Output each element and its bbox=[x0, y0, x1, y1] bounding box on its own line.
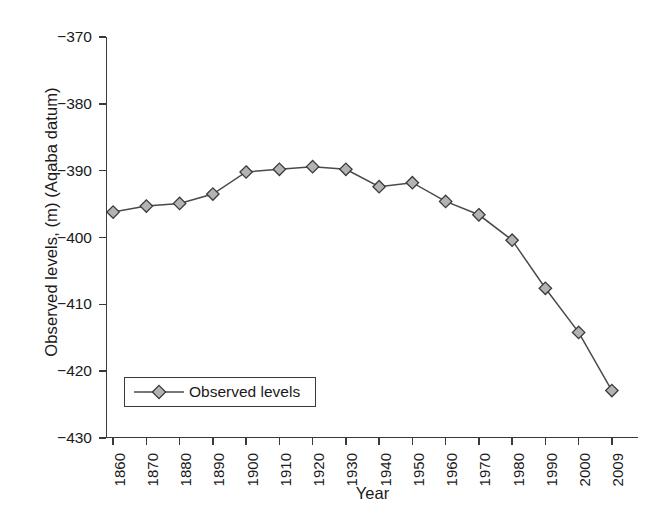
x-tick-label: 1930 bbox=[343, 453, 360, 486]
legend-marker-icon bbox=[131, 381, 187, 403]
data-point bbox=[606, 384, 618, 396]
data-point bbox=[373, 181, 385, 193]
y-tick bbox=[99, 237, 106, 238]
data-point bbox=[406, 176, 418, 188]
x-tick bbox=[511, 438, 512, 445]
x-tick-label: 2009 bbox=[609, 453, 626, 486]
y-tick-label: −380 bbox=[57, 95, 92, 113]
chart-figure: Observed levels, (m) (Aqaba datum) −370−… bbox=[0, 0, 668, 522]
x-tick bbox=[245, 438, 246, 445]
data-point bbox=[173, 197, 185, 209]
legend: Observed levels bbox=[124, 377, 316, 407]
x-tick bbox=[578, 438, 579, 445]
data-point bbox=[107, 206, 119, 218]
x-tick-label: 2000 bbox=[576, 453, 593, 486]
series-markers bbox=[107, 160, 618, 396]
x-tick bbox=[212, 438, 213, 445]
y-tick-label: −390 bbox=[57, 162, 92, 180]
plot-area: −370−380−390−400−410−420−430 18601870188… bbox=[106, 37, 638, 438]
y-tick-label: −370 bbox=[57, 28, 92, 46]
x-tick bbox=[345, 438, 346, 445]
x-tick bbox=[179, 438, 180, 445]
y-tick-label: −430 bbox=[57, 429, 92, 447]
data-point bbox=[473, 209, 485, 221]
y-tick bbox=[99, 437, 106, 438]
x-tick-label: 1940 bbox=[376, 453, 393, 486]
data-point bbox=[140, 200, 152, 212]
y-tick bbox=[99, 304, 106, 305]
x-tick-label: 1980 bbox=[509, 453, 526, 486]
data-point bbox=[273, 163, 285, 175]
x-tick-label: 1990 bbox=[542, 453, 559, 486]
data-point bbox=[340, 163, 352, 175]
x-tick bbox=[112, 438, 113, 445]
series-line bbox=[113, 167, 612, 391]
x-tick-label: 1950 bbox=[409, 453, 426, 486]
x-tick bbox=[279, 438, 280, 445]
x-tick bbox=[545, 438, 546, 445]
data-point bbox=[539, 282, 551, 294]
data-point bbox=[306, 160, 318, 172]
data-point bbox=[572, 326, 584, 338]
x-tick bbox=[378, 438, 379, 445]
x-tick bbox=[412, 438, 413, 445]
y-tick bbox=[99, 36, 106, 37]
x-tick-label: 1860 bbox=[110, 453, 127, 486]
x-tick-label: 1910 bbox=[276, 453, 293, 486]
data-point bbox=[207, 188, 219, 200]
x-tick-label: 1960 bbox=[443, 453, 460, 486]
x-tick-label: 1970 bbox=[476, 453, 493, 486]
x-tick bbox=[312, 438, 313, 445]
data-point bbox=[506, 234, 518, 246]
y-tick bbox=[99, 103, 106, 104]
data-point bbox=[240, 166, 252, 178]
y-tick-label: −400 bbox=[57, 229, 92, 247]
legend-label-observed-levels: Observed levels bbox=[189, 383, 300, 401]
x-axis-title: Year bbox=[107, 484, 638, 503]
y-tick bbox=[99, 370, 106, 371]
x-tick-label: 1880 bbox=[177, 453, 194, 486]
data-point bbox=[439, 195, 451, 207]
x-tick-label: 1870 bbox=[143, 453, 160, 486]
y-tick-label: −420 bbox=[57, 362, 92, 380]
y-tick-label: −410 bbox=[57, 295, 92, 313]
x-tick-label: 1920 bbox=[310, 453, 327, 486]
x-tick bbox=[146, 438, 147, 445]
x-tick bbox=[611, 438, 612, 445]
y-tick bbox=[99, 170, 106, 171]
x-tick bbox=[478, 438, 479, 445]
x-tick-label: 1900 bbox=[243, 453, 260, 486]
x-tick bbox=[445, 438, 446, 445]
x-tick-label: 1890 bbox=[210, 453, 227, 486]
